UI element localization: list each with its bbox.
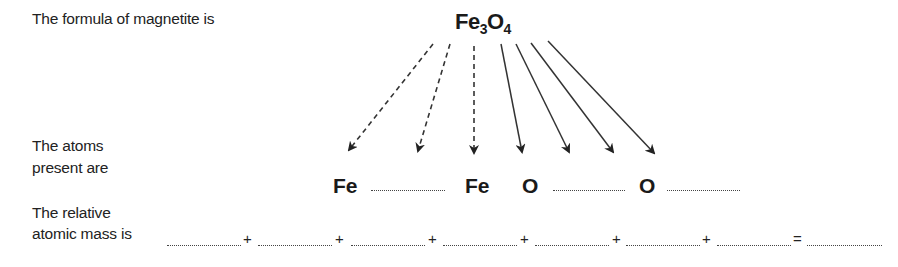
- solid-arrows-o: [501, 41, 654, 153]
- mass-total-blank[interactable]: [807, 245, 882, 246]
- mass-blank-1[interactable]: [167, 245, 241, 246]
- mass-label-line1: The relative: [32, 203, 132, 223]
- atoms-label-line2: present are: [32, 158, 108, 178]
- mass-label-line2: atomic mass is: [32, 224, 132, 244]
- atom-slot-1: Fe: [333, 174, 358, 198]
- solid-arrow-icon: [501, 44, 522, 152]
- mass-blank-4[interactable]: [443, 245, 517, 246]
- atom-blank-slot-5[interactable]: [553, 190, 625, 191]
- solid-arrow-icon: [516, 44, 569, 152]
- plus-operator: +: [335, 231, 344, 247]
- plus-operator: +: [520, 231, 529, 247]
- atom-slot-6: O: [639, 174, 655, 198]
- plus-operator: +: [612, 231, 621, 247]
- mass-blank-2[interactable]: [258, 245, 332, 246]
- atoms-present-label: The atoms present are: [32, 136, 108, 178]
- atom-slot-4: O: [522, 174, 538, 198]
- plus-operator: +: [702, 231, 711, 247]
- atom-blank-slot-2[interactable]: [371, 190, 445, 191]
- mass-blank-6[interactable]: [626, 245, 700, 246]
- plus-operator: +: [243, 231, 252, 247]
- equals-operator: =: [793, 231, 802, 247]
- mass-blank-5[interactable]: [535, 245, 609, 246]
- atom-slot-3: Fe: [465, 174, 490, 198]
- atom-blank-slot-7[interactable]: [667, 190, 740, 191]
- dashed-arrow-icon: [418, 44, 450, 151]
- mass-blank-3[interactable]: [351, 245, 425, 246]
- mass-blank-7[interactable]: [717, 245, 791, 246]
- dashed-arrow-icon: [349, 44, 433, 150]
- atoms-label-line1: The atoms: [32, 136, 108, 156]
- plus-operator: +: [428, 231, 437, 247]
- atom-arrows-diagram: [0, 0, 898, 267]
- dashed-arrows-fe: [349, 44, 474, 153]
- relative-atomic-mass-label: The relative atomic mass is: [32, 203, 132, 244]
